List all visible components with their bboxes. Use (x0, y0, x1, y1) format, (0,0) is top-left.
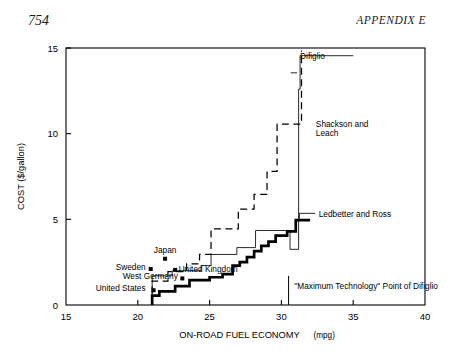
country-label: United Kingdom (179, 264, 238, 274)
country-label: West Germany (123, 271, 179, 281)
y-axis-title: COST ($/gallon) (16, 143, 26, 210)
y-tick-label: 5 (53, 214, 58, 225)
x-tick-label: 20 (133, 311, 144, 322)
x-tick-label: 15 (61, 311, 72, 322)
x-tick-label: 30 (276, 311, 287, 322)
country-marker (180, 276, 184, 280)
y-tick-label: 0 (53, 300, 58, 311)
series-ledbetter-and-ross (152, 220, 310, 305)
y-tick-label: 15 (47, 43, 58, 54)
country-marker (163, 257, 167, 261)
series-label-ledbetter-and-ross: Ledbetter and Ross (319, 209, 391, 219)
chart-canvas: 152025303540051015ON-ROAD FUEL ECONOMY(m… (0, 0, 452, 355)
x-tick-label: 25 (204, 311, 215, 322)
country-label: United States (96, 283, 146, 293)
country-marker (152, 288, 156, 292)
country-label: Japan (154, 245, 177, 255)
x-tick-label: 40 (420, 311, 431, 322)
x-axis-units: (mpg) (314, 331, 336, 340)
series-label-shackson-and-leach-line2: Leach (316, 128, 339, 138)
series-label-difiglio: Difiglio (300, 51, 325, 61)
country-marker (149, 267, 153, 271)
max-technology-note: "Maximum Technology" Point of Difiglio (294, 281, 438, 291)
x-axis-title: ON-ROAD FUEL ECONOMY (179, 330, 300, 340)
x-tick-label: 35 (348, 311, 359, 322)
figure-cost-vs-fuel-economy: 152025303540051015ON-ROAD FUEL ECONOMY(m… (0, 0, 452, 355)
y-tick-label: 10 (47, 128, 58, 139)
